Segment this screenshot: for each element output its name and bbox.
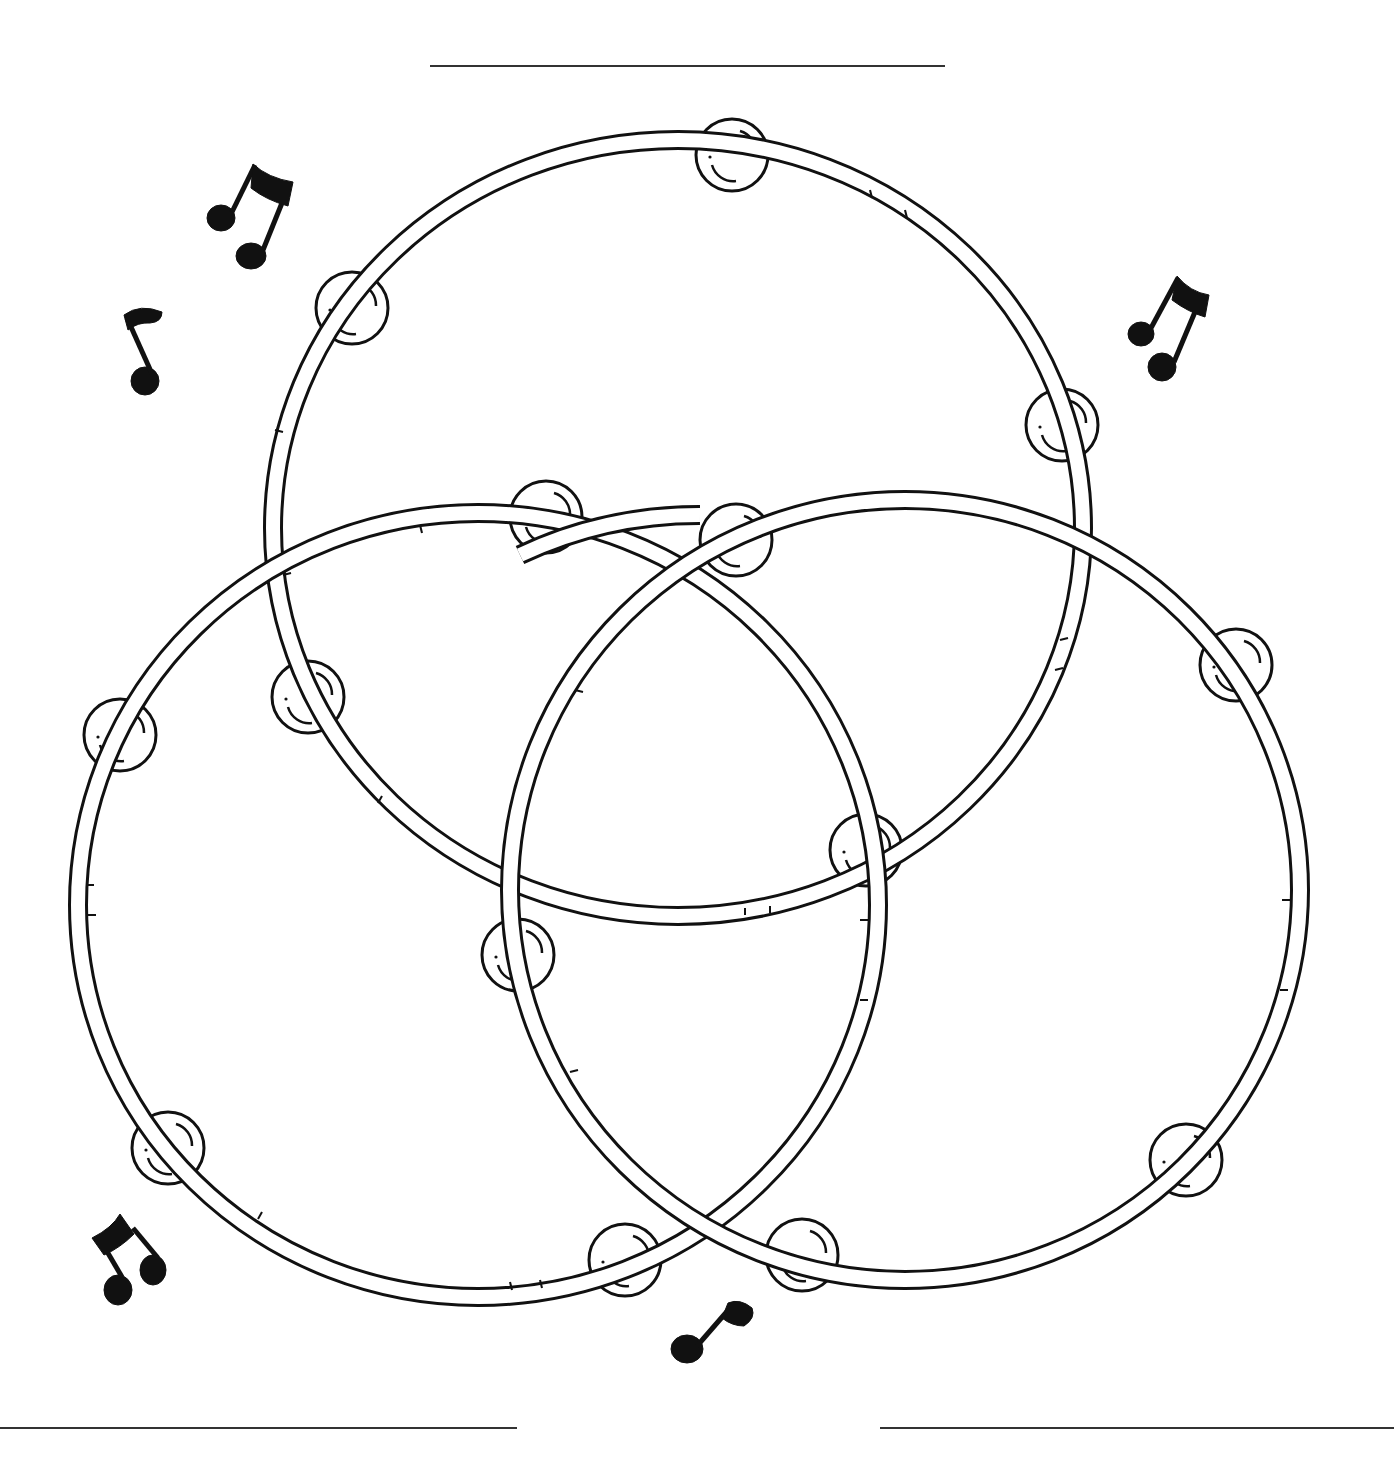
- beamed-eighth-notes-icon: [92, 1214, 166, 1305]
- venn-worksheet: [0, 0, 1394, 1462]
- eighth-note-icon: [124, 308, 162, 395]
- venn-diagram-svg: [0, 0, 1394, 1462]
- tambourine-bottom-right[interactable]: [510, 500, 1300, 1280]
- ring-tick-marks: [86, 190, 1290, 1290]
- beamed-eighth-notes-icon: [1128, 276, 1209, 381]
- eighth-note-icon: [671, 1301, 753, 1363]
- beamed-eighth-notes-icon: [207, 164, 293, 269]
